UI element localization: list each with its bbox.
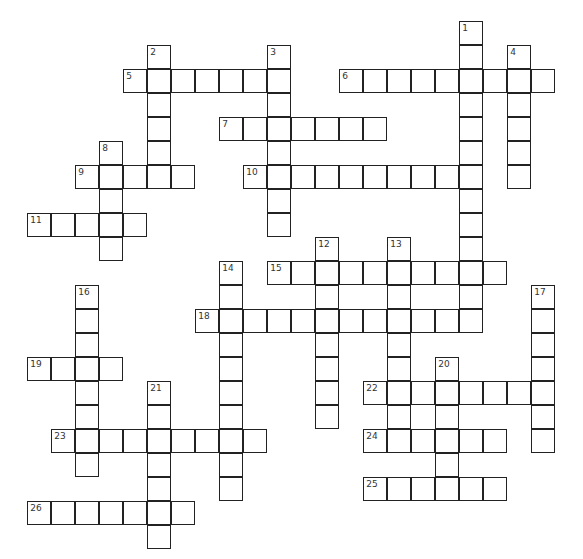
crossword-cell[interactable] <box>387 357 411 381</box>
crossword-cell[interactable] <box>147 501 171 525</box>
crossword-cell[interactable]: 16 <box>75 285 99 309</box>
crossword-cell[interactable] <box>147 93 171 117</box>
crossword-cell[interactable] <box>171 501 195 525</box>
crossword-cell[interactable] <box>459 45 483 69</box>
crossword-cell[interactable] <box>75 453 99 477</box>
crossword-cell[interactable] <box>507 93 531 117</box>
crossword-cell[interactable] <box>459 285 483 309</box>
crossword-cell[interactable]: 10 <box>243 165 267 189</box>
crossword-cell[interactable] <box>459 381 483 405</box>
crossword-cell[interactable] <box>75 213 99 237</box>
crossword-cell[interactable] <box>507 117 531 141</box>
crossword-cell[interactable] <box>363 165 387 189</box>
crossword-cell[interactable] <box>99 213 123 237</box>
crossword-cell[interactable]: 13 <box>387 237 411 261</box>
crossword-cell[interactable] <box>219 477 243 501</box>
crossword-cell[interactable] <box>99 501 123 525</box>
crossword-cell[interactable] <box>267 141 291 165</box>
crossword-cell[interactable] <box>147 477 171 501</box>
crossword-cell[interactable] <box>243 429 267 453</box>
crossword-cell[interactable] <box>435 453 459 477</box>
crossword-cell[interactable] <box>387 261 411 285</box>
crossword-cell[interactable] <box>219 453 243 477</box>
crossword-cell[interactable] <box>387 381 411 405</box>
crossword-cell[interactable] <box>531 405 555 429</box>
crossword-cell[interactable] <box>435 477 459 501</box>
crossword-cell[interactable]: 19 <box>27 357 51 381</box>
crossword-cell[interactable] <box>363 261 387 285</box>
crossword-cell[interactable] <box>219 429 243 453</box>
crossword-cell[interactable] <box>123 213 147 237</box>
crossword-cell[interactable]: 20 <box>435 357 459 381</box>
crossword-cell[interactable] <box>483 69 507 93</box>
crossword-cell[interactable] <box>219 285 243 309</box>
crossword-cell[interactable]: 8 <box>99 141 123 165</box>
crossword-cell[interactable] <box>267 189 291 213</box>
crossword-cell[interactable] <box>435 261 459 285</box>
crossword-cell[interactable] <box>315 261 339 285</box>
crossword-cell[interactable] <box>411 429 435 453</box>
crossword-cell[interactable] <box>483 477 507 501</box>
crossword-cell[interactable] <box>387 333 411 357</box>
crossword-cell[interactable] <box>411 381 435 405</box>
crossword-cell[interactable] <box>267 93 291 117</box>
crossword-cell[interactable] <box>99 357 123 381</box>
crossword-cell[interactable] <box>339 165 363 189</box>
crossword-cell[interactable] <box>387 405 411 429</box>
crossword-cell[interactable] <box>459 261 483 285</box>
crossword-cell[interactable] <box>459 141 483 165</box>
crossword-cell[interactable] <box>243 309 267 333</box>
crossword-cell[interactable]: 9 <box>75 165 99 189</box>
crossword-cell[interactable] <box>99 237 123 261</box>
crossword-cell[interactable] <box>339 261 363 285</box>
crossword-cell[interactable] <box>387 69 411 93</box>
crossword-cell[interactable]: 23 <box>51 429 75 453</box>
crossword-cell[interactable] <box>339 117 363 141</box>
crossword-cell[interactable] <box>459 477 483 501</box>
crossword-cell[interactable] <box>75 405 99 429</box>
crossword-cell[interactable] <box>411 69 435 93</box>
crossword-cell[interactable] <box>75 429 99 453</box>
crossword-cell[interactable] <box>291 309 315 333</box>
crossword-cell[interactable] <box>483 381 507 405</box>
crossword-cell[interactable] <box>99 165 123 189</box>
crossword-cell[interactable] <box>147 525 171 549</box>
crossword-cell[interactable] <box>315 357 339 381</box>
crossword-cell[interactable] <box>435 429 459 453</box>
crossword-cell[interactable] <box>243 69 267 93</box>
crossword-cell[interactable] <box>291 165 315 189</box>
crossword-cell[interactable] <box>147 69 171 93</box>
crossword-cell[interactable] <box>315 309 339 333</box>
crossword-cell[interactable] <box>315 381 339 405</box>
crossword-cell[interactable] <box>483 429 507 453</box>
crossword-cell[interactable] <box>531 357 555 381</box>
crossword-cell[interactable] <box>459 189 483 213</box>
crossword-cell[interactable] <box>51 357 75 381</box>
crossword-cell[interactable] <box>195 69 219 93</box>
crossword-cell[interactable] <box>459 237 483 261</box>
crossword-cell[interactable] <box>339 309 363 333</box>
crossword-cell[interactable] <box>267 117 291 141</box>
crossword-cell[interactable] <box>219 333 243 357</box>
crossword-cell[interactable] <box>387 309 411 333</box>
crossword-cell[interactable] <box>459 69 483 93</box>
crossword-cell[interactable] <box>147 405 171 429</box>
crossword-cell[interactable]: 21 <box>147 381 171 405</box>
crossword-cell[interactable] <box>75 357 99 381</box>
crossword-cell[interactable] <box>363 309 387 333</box>
crossword-cell[interactable] <box>435 69 459 93</box>
crossword-cell[interactable] <box>435 309 459 333</box>
crossword-cell[interactable] <box>435 405 459 429</box>
crossword-cell[interactable] <box>315 117 339 141</box>
crossword-cell[interactable] <box>459 213 483 237</box>
crossword-cell[interactable]: 4 <box>507 45 531 69</box>
crossword-cell[interactable] <box>75 333 99 357</box>
crossword-cell[interactable]: 14 <box>219 261 243 285</box>
crossword-cell[interactable] <box>387 477 411 501</box>
crossword-cell[interactable] <box>387 165 411 189</box>
crossword-cell[interactable] <box>171 69 195 93</box>
crossword-cell[interactable] <box>171 165 195 189</box>
crossword-cell[interactable] <box>315 285 339 309</box>
crossword-cell[interactable] <box>147 429 171 453</box>
crossword-cell[interactable]: 3 <box>267 45 291 69</box>
